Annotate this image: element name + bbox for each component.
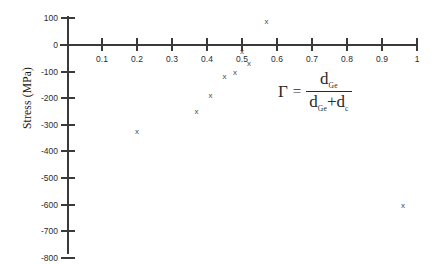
x-axis-tick-label: 0.8 [332, 54, 362, 64]
x-axis-line [60, 44, 418, 46]
x-axis-tick [346, 38, 348, 51]
x-axis-tick [416, 38, 418, 51]
x-axis-tick-label: 0.3 [157, 54, 187, 64]
data-point-marker: x [206, 91, 215, 100]
y-axis-tick-label: -500 [18, 173, 58, 183]
x-axis-tick [276, 38, 278, 51]
x-axis-tick [136, 38, 138, 51]
data-point-marker: x [262, 17, 271, 26]
data-point-marker: x [238, 47, 247, 56]
y-axis-tick-label: -300 [18, 120, 58, 130]
data-point-marker: x [192, 107, 201, 116]
data-point-marker: x [220, 72, 229, 81]
x-axis-tick-label: 0.4 [192, 54, 222, 64]
y-axis-tick-label: 0 [18, 40, 58, 50]
denominator-plus: + [327, 92, 337, 111]
x-axis-tick-label: 0.6 [262, 54, 292, 64]
x-axis-tick [311, 38, 313, 51]
x-axis-tick [101, 38, 103, 51]
fraction-numerator: dGe [314, 70, 344, 91]
y-axis-tick-label: -400 [18, 146, 58, 156]
y-axis-tick [61, 257, 75, 259]
gamma-symbol: Γ [278, 82, 288, 102]
numerator-base: d [320, 69, 329, 88]
y-axis-tick [61, 17, 75, 19]
data-point-marker: x [231, 68, 240, 77]
denominator-second-subscript: c [345, 105, 349, 114]
data-point-marker: x [399, 201, 408, 210]
y-axis-tick [61, 177, 75, 179]
y-axis-tick-label: -600 [18, 200, 58, 210]
y-axis-tick [61, 44, 75, 46]
denominator-first-subscript: Ge [318, 105, 327, 114]
y-axis-tick [61, 71, 75, 73]
y-axis-tick [61, 150, 75, 152]
y-axis-tick [61, 124, 75, 126]
gamma-definition-annotation: Γ = dGe dGe+dc [278, 70, 352, 114]
fraction-denominator: dGe+dc [306, 92, 351, 113]
y-axis-tick-label: -700 [18, 226, 58, 236]
fraction: dGe dGe+dc [306, 70, 351, 114]
y-axis-tick-label: -100 [18, 67, 58, 77]
y-axis-tick-label: -200 [18, 93, 58, 103]
data-point-marker: x [245, 59, 254, 68]
x-axis-tick [381, 38, 383, 51]
denominator-second-base: d [337, 92, 346, 111]
equals-symbol: = [293, 83, 301, 100]
x-axis-tick-label: 0.1 [87, 54, 117, 64]
denominator-first-base: d [309, 92, 318, 111]
y-axis-line [67, 16, 69, 254]
scatter-chart: Stress (MPa) 1000-100-200-300-400-500-60… [0, 0, 434, 264]
y-axis-tick [61, 97, 75, 99]
y-axis-tick [61, 230, 75, 232]
numerator-subscript: Ge [329, 81, 338, 90]
y-axis-tick-label: 100 [18, 13, 58, 23]
y-axis-tick-label: -800 [18, 253, 58, 263]
x-axis-tick-label: 0.7 [297, 54, 327, 64]
data-point-marker: x [133, 127, 142, 136]
x-axis-tick [206, 38, 208, 51]
x-axis-tick-label: 1 [402, 54, 432, 64]
y-axis-tick [61, 204, 75, 206]
x-axis-tick-label: 0.2 [122, 54, 152, 64]
x-axis-tick [171, 38, 173, 51]
x-axis-tick-label: 0.9 [367, 54, 397, 64]
